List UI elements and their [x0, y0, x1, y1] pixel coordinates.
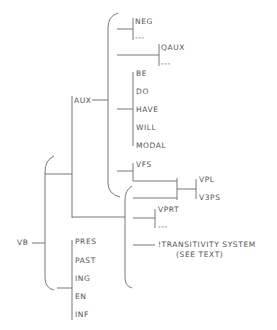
node-do: DO	[136, 87, 149, 96]
node-transitivity-note: (SEE TEXT)	[176, 250, 223, 259]
node-ing: ING	[75, 274, 90, 283]
node-pres: PRES	[75, 237, 97, 246]
lower-brace	[125, 186, 132, 288]
node-vprt-empty: ---	[158, 222, 168, 231]
node-transitivity: !TRANSITIVITY SYSTEM	[158, 240, 256, 249]
node-vfs: VFS	[136, 160, 152, 169]
node-v3ps: V3PS	[199, 193, 221, 202]
aux-brace	[108, 13, 120, 197]
node-neg: NEG	[135, 17, 153, 26]
node-vpl: VPL	[199, 175, 215, 184]
node-qaux: QAUX	[161, 43, 185, 52]
node-en: EN	[75, 292, 87, 301]
node-inf: INF	[75, 310, 89, 319]
node-vb: VB	[17, 238, 28, 247]
node-modal: MODAL	[136, 141, 166, 150]
node-have: HAVE	[136, 105, 159, 114]
node-aux: AUX	[74, 96, 92, 105]
node-past: PAST	[75, 256, 96, 265]
node-qaux-empty: ---	[161, 59, 171, 68]
node-neg-empty: ---	[135, 33, 145, 42]
node-vprt: VPRT	[158, 205, 179, 214]
node-will: WILL	[136, 123, 156, 132]
node-be: BE	[136, 69, 147, 78]
vb-brace	[45, 156, 54, 290]
verb-system-network-diagram: VB AUX NEG --- QAUX --- BE DO HAVE WILL …	[0, 0, 277, 330]
